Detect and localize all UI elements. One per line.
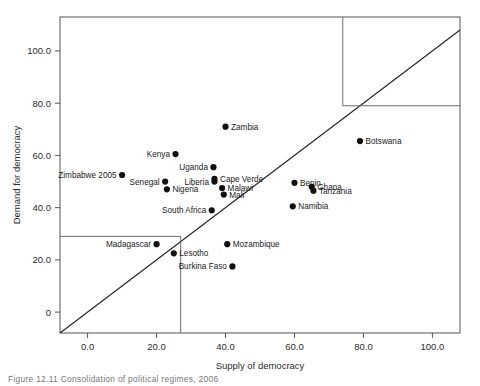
x-tick-label: 0.0 [81,341,94,352]
data-point [119,172,125,178]
data-point [209,207,215,213]
data-point-label: Kenya [147,150,171,159]
figure-caption: Figure 12.11 Consolidation of political … [8,374,218,384]
y-tick-label: 80.0 [33,98,52,109]
y-tick-label: 0 [46,307,51,318]
data-point-label: Madagascar [106,240,151,249]
data-point-label: Botswana [366,137,402,146]
data-point [162,178,168,184]
data-point [219,185,225,191]
data-point-label: Namibia [298,202,328,211]
data-point-label: Zimbabwe 2005 [58,171,117,180]
data-point-label: Mali [229,191,244,200]
data-point [171,250,177,256]
data-point-label: Tanzania [319,187,352,196]
y-tick-label: 20.0 [33,254,52,265]
data-point [211,178,217,184]
data-point [310,188,316,194]
x-tick-label: 20.0 [147,341,166,352]
data-point-label: Lesotho [179,249,209,258]
y-tick-label: 100.0 [27,45,51,56]
x-tick-label: 60.0 [285,341,304,352]
x-tick-label: 40.0 [216,341,235,352]
y-tick-label: 60.0 [33,150,52,161]
data-point [290,203,296,209]
data-point [210,164,216,170]
data-point [357,138,363,144]
data-point-label: Mozambique [233,240,280,249]
data-point [172,151,178,157]
data-point [153,241,159,247]
x-tick-label: 80.0 [354,341,373,352]
data-point [229,263,235,269]
data-point-label: Senegal [130,178,160,187]
y-tick-label: 40.0 [33,202,52,213]
x-tick-label: 100.0 [421,341,445,352]
x-axis-title: Supply of democracy [216,360,305,371]
data-point [224,241,230,247]
data-point-label: Cape Verde [220,175,264,184]
data-point-label: Zambia [231,123,259,132]
data-point-label: Burkina Faso [179,262,228,271]
data-point [221,191,227,197]
data-point-label: Uganda [179,163,208,172]
data-point [291,180,297,186]
data-point [164,186,170,192]
data-point-label: South Africa [162,206,207,215]
y-axis-title: Demand for democracy [11,125,22,224]
data-point [222,124,228,130]
scatter-plot: 0.020.040.060.080.0100.0020.040.060.080.… [0,0,480,386]
data-point-label: Nigeria [172,185,198,194]
figure-container: 0.020.040.060.080.0100.0020.040.060.080.… [0,0,480,386]
